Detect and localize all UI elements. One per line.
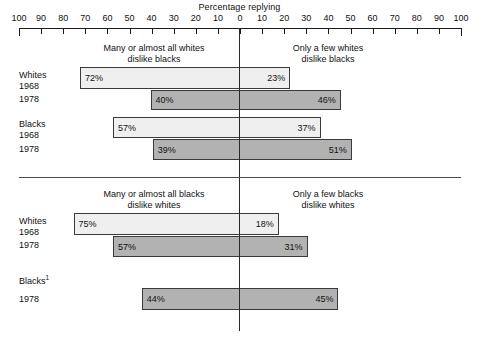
panel2-right-header-line1: Only a few blacks <box>240 189 416 200</box>
axis-tick-label: 50 <box>124 13 134 23</box>
axis-tick-mark <box>152 28 153 34</box>
axis-tick-label: 40 <box>323 13 333 23</box>
row-label-blacks-group2-footnote: 1 <box>46 274 50 281</box>
axis-tick-mark <box>328 28 329 34</box>
bar-whites2-1968: 75% 18% <box>74 213 279 235</box>
row-label-blacks-group1: Blacks <box>19 119 46 130</box>
bar-value-whites2-1978-left: 57% <box>118 242 136 252</box>
axis-tick-mark <box>85 28 86 34</box>
axis-tick-label: 60 <box>102 13 112 23</box>
axis-tick-mark <box>262 28 263 34</box>
axis-tick-mark <box>306 28 307 34</box>
axis-tick-label: 80 <box>412 13 422 23</box>
bar-whites2-1978: 57% 31% <box>113 236 308 257</box>
panel1-right-header-line2: dislike blacks <box>240 54 416 65</box>
row-label-whites-1978: 1978 <box>19 94 39 105</box>
bar-value-blacks-1968-left: 57% <box>118 123 136 133</box>
zero-reference-line-lower <box>239 178 240 331</box>
bar-value-blacks2-1978-right: 45% <box>315 294 333 304</box>
axis-tick-mark <box>218 28 219 34</box>
axis-tick-mark <box>130 28 131 34</box>
row-label-blacks2-1978: 1978 <box>19 294 39 305</box>
bar-blacks2-1978: 44% 45% <box>142 288 339 310</box>
chart-axis-title-text: Percentage replying <box>199 2 281 12</box>
axis-tick-mark <box>107 28 108 34</box>
panel2-right-header: Only a few blacks dislike whites <box>240 189 416 211</box>
axis-tick-label: 100 <box>453 13 468 23</box>
row-label-blacks-1968: 1968 <box>19 130 39 141</box>
axis-tick-label: 70 <box>390 13 400 23</box>
axis-tick-label: 30 <box>169 13 179 23</box>
axis-tick-label: 80 <box>58 13 68 23</box>
axis-tick-label: 90 <box>36 13 46 23</box>
axis-tick-mark <box>63 28 64 34</box>
row-label-whites2-1978: 1978 <box>19 240 39 251</box>
axis-tick-mark <box>395 28 396 34</box>
bar-blacks-1968: 57% 37% <box>113 117 321 138</box>
axis-tick-label: 70 <box>80 13 90 23</box>
bar-value-whites-1968-left: 72% <box>85 73 103 83</box>
axis-tick-label: 30 <box>301 13 311 23</box>
panel1-left-header-line1: Many or almost all whites <box>66 43 242 54</box>
axis-tick-mark <box>196 28 197 34</box>
zero-reference-line-upper <box>239 28 240 177</box>
bar-value-whites2-1968-left: 75% <box>79 219 97 229</box>
axis-tick-mark <box>439 28 440 34</box>
axis-tick-label: 60 <box>368 13 378 23</box>
bar-value-whites-1978-right: 46% <box>318 95 336 105</box>
bar-value-whites-1978-left: 40% <box>156 95 174 105</box>
axis-tick-label: 20 <box>191 13 201 23</box>
bar-value-blacks2-1978-left: 44% <box>147 294 165 304</box>
axis-tick-label: 0 <box>237 13 242 23</box>
bar-whites-1978: 40% 46% <box>151 90 341 110</box>
axis-tick-mark <box>240 28 241 34</box>
diverging-bar-chart: Percentage replying 10090807060504030201… <box>0 0 477 339</box>
bar-value-blacks-1968-right: 37% <box>298 123 316 133</box>
axis-tick-mark <box>351 28 352 34</box>
panel1-right-header: Only a few whites dislike blacks <box>240 43 416 65</box>
axis-tick-label: 50 <box>345 13 355 23</box>
bar-value-whites2-1968-right: 18% <box>256 219 274 229</box>
bar-whites-1968: 72% 23% <box>80 67 290 89</box>
panel2-left-header-line1: Many or almost all blacks <box>66 189 242 200</box>
panel2-right-header-line2: dislike whites <box>240 200 416 211</box>
bar-blacks-1978: 39% 51% <box>153 139 352 160</box>
panel-separator-rule <box>19 177 461 178</box>
axis-tick-mark <box>19 28 20 36</box>
bar-value-blacks-1978-left: 39% <box>158 145 176 155</box>
axis-tick-label: 10 <box>213 13 223 23</box>
axis-tick-label: 40 <box>147 13 157 23</box>
chart-axis-title: Percentage replying <box>0 2 477 12</box>
panel1-right-header-line1: Only a few whites <box>240 43 416 54</box>
axis-tick-mark <box>41 28 42 34</box>
axis-tick-label: 10 <box>257 13 267 23</box>
row-label-whites2-1968: 1968 <box>19 227 39 238</box>
row-label-blacks-group2: Blacks1 <box>19 276 49 287</box>
row-label-whites-1968: 1968 <box>19 81 39 92</box>
bar-value-whites2-1978-right: 31% <box>285 242 303 252</box>
axis-tick-mark <box>461 28 462 36</box>
axis-tick-mark <box>284 28 285 34</box>
row-label-whites-group2: Whites <box>19 216 47 227</box>
axis-tick-mark <box>373 28 374 34</box>
axis-tick-mark <box>417 28 418 34</box>
row-label-whites-group1: Whites <box>19 70 47 81</box>
axis-tick-labels: 1009080706050403020100102030405060708090… <box>0 13 477 25</box>
row-label-blacks-group2-text: Blacks <box>19 276 46 286</box>
panel1-left-header: Many or almost all whites dislike blacks <box>66 43 242 65</box>
axis-tick-mark <box>174 28 175 34</box>
panel2-left-header-line2: dislike whites <box>66 200 242 211</box>
panel2-left-header: Many or almost all blacks dislike whites <box>66 189 242 211</box>
axis-tick-label: 100 <box>11 13 26 23</box>
axis-tick-label: 20 <box>279 13 289 23</box>
bar-value-whites-1968-right: 23% <box>267 73 285 83</box>
row-label-blacks-1978: 1978 <box>19 144 39 155</box>
axis-tick-label: 90 <box>434 13 444 23</box>
panel1-left-header-line2: dislike blacks <box>66 54 242 65</box>
bar-value-blacks-1978-right: 51% <box>329 145 347 155</box>
